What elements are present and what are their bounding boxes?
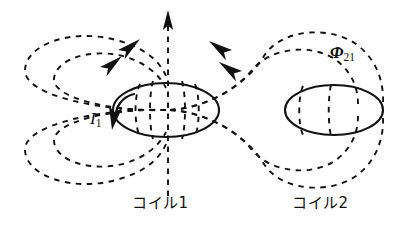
figure-root: I1 Φ21 コイル1 コイル2	[0, 0, 407, 237]
field-line-through-coil1-c	[182, 81, 185, 139]
coil-2-caption: コイル2	[292, 196, 349, 211]
field-line-left-inner-upper	[54, 53, 166, 110]
flux-symbol: Φ	[330, 43, 343, 62]
field-line-right-outer-lower	[170, 110, 383, 188]
coil-1-caption: コイル1	[132, 196, 189, 211]
field-line-through-coil2-b	[329, 85, 331, 136]
field-line-left-inner-lower	[54, 110, 166, 167]
field-line-through-coil1-d	[195, 84, 199, 137]
current-arrowhead-icon	[109, 106, 122, 130]
flux-subscript: 21	[343, 51, 355, 64]
field-arrowhead-left-inner-icon	[100, 56, 122, 77]
current-label: I1	[90, 110, 101, 130]
current-subscript: 1	[96, 117, 102, 130]
field-line-left-outer-upper	[25, 36, 166, 110]
field-arrowhead-right-inner-icon	[219, 62, 242, 82]
arrowheads-group	[100, 10, 242, 82]
flux-label: Φ21	[330, 44, 355, 64]
field-arrowhead-right-outer-icon	[209, 41, 232, 61]
